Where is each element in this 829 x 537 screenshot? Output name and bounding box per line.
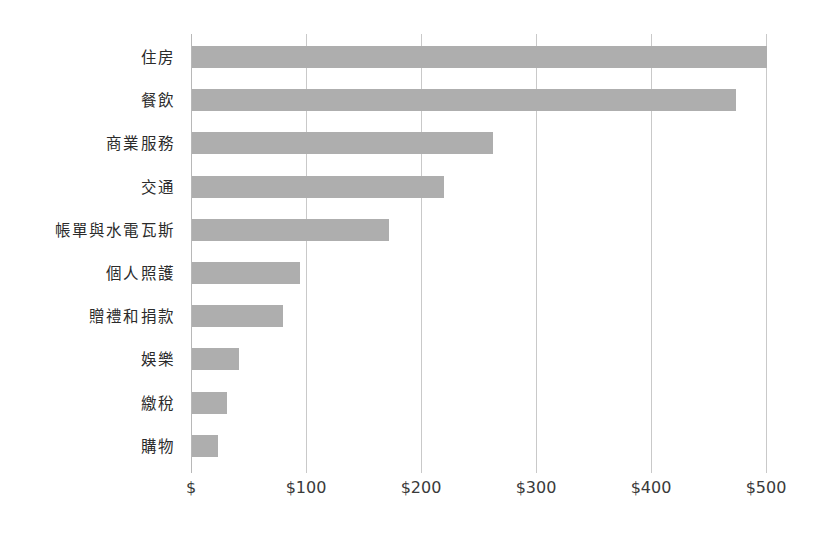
category-label: 帳單與水電瓦斯 [55,220,175,242]
category-label: 商業服務 [106,133,175,155]
bar [192,348,239,370]
category-label: 餐飲 [141,90,175,112]
bar [192,305,283,327]
x-tick-label: $200 [401,478,442,498]
plot-area [191,34,766,473]
bar [192,46,767,68]
category-axis-labels: 住房餐飲商業服務交通帳單與水電瓦斯個人照護贈禮和捐款娛樂繳稅購物 [0,34,183,473]
gridline-500 [766,34,767,473]
bar [192,435,218,457]
value-axis-tick-labels: $$100$200$300$400$500 [191,478,766,508]
category-label: 娛樂 [141,349,175,371]
x-tick-label: $400 [631,478,672,498]
bar [192,176,444,198]
x-tick-label: $ [186,478,196,498]
bar-chart: 住房餐飲商業服務交通帳單與水電瓦斯個人照護贈禮和捐款娛樂繳稅購物 $$100$2… [0,0,829,537]
bar [192,392,227,414]
category-label: 贈禮和捐款 [89,306,175,328]
category-label: 交通 [141,177,175,199]
bar [192,89,736,111]
bar [192,219,389,241]
x-tick-label: $300 [516,478,557,498]
x-tick-label: $100 [286,478,327,498]
category-label: 購物 [141,436,175,458]
category-label: 住房 [141,47,175,69]
category-label: 繳稅 [141,393,175,415]
category-label: 個人照護 [106,263,175,285]
bar [192,132,493,154]
bar [192,262,300,284]
x-tick-label: $500 [746,478,787,498]
